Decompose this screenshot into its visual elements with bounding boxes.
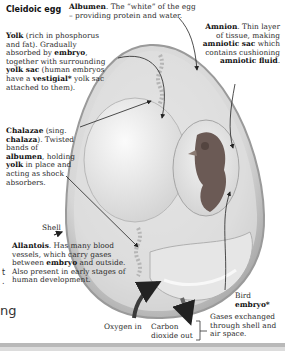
label-oxygen-in: Oxygen in — [104, 323, 142, 332]
label-amnion: Amnion. Thin layer of tissue, making amn… — [200, 23, 280, 66]
label-yolk: Yolk (rich in phosphorus and fat). Gradu… — [6, 32, 108, 92]
term-embryo-3: embryo* — [235, 300, 270, 309]
label-shell: Shell — [42, 224, 61, 233]
term-amniotic-fluid: amniotic fluid — [220, 56, 278, 65]
bottom-border-shadow — [0, 347, 285, 351]
edge-fragment-t: t — [2, 268, 5, 277]
label-gases-exchanged: Gases exchanged through shell and air sp… — [210, 313, 284, 339]
edge-fragment-dot: . — [2, 277, 5, 286]
label-co2-out: Carbon dioxide out — [151, 323, 197, 340]
edge-fragment-ng: ng — [0, 303, 17, 318]
gases-bracket — [196, 321, 207, 340]
label-chalazae: Chalazae (sing. chalaza). Twisted bands … — [6, 127, 76, 187]
label-albumen: Albumen. The “white” of the egg – provid… — [69, 3, 199, 20]
amnion-text-3: . — [278, 56, 280, 65]
diagram-title: Cleidoic egg — [6, 5, 61, 14]
label-allantois: Allantois. Has many blood vessels, which… — [12, 242, 137, 285]
label-bird-embryo: Bird embryo* — [235, 292, 285, 309]
